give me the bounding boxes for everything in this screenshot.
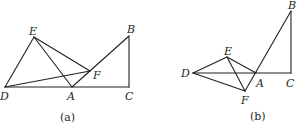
label-D: D xyxy=(180,67,190,80)
label-C: C xyxy=(125,90,134,103)
segment-EA xyxy=(34,37,72,87)
label-E: E xyxy=(223,45,232,58)
label-A: A xyxy=(66,90,75,103)
label-B: B xyxy=(126,23,135,36)
caption-a: (a) xyxy=(60,111,75,124)
label-D: D xyxy=(0,90,9,103)
label-F: F xyxy=(240,94,249,107)
segment-DF xyxy=(5,71,90,87)
label-F: F xyxy=(92,69,101,82)
segment-DE xyxy=(5,37,34,87)
label-C: C xyxy=(286,77,295,90)
caption-b: (b) xyxy=(250,110,266,123)
segment-DE xyxy=(193,57,227,73)
figure-a: E B F D A C (a) xyxy=(0,23,135,124)
label-E: E xyxy=(28,25,37,38)
segment-FB xyxy=(245,11,291,91)
figure-b: B E D A C F (b) xyxy=(180,0,296,123)
label-B: B xyxy=(287,0,296,12)
segment-EF xyxy=(34,37,90,71)
geometry-diagram: E B F D A C (a) B E D A C F (b) xyxy=(0,0,296,136)
label-A: A xyxy=(255,77,264,90)
